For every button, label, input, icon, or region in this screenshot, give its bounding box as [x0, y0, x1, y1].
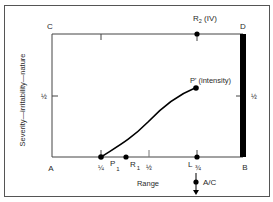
r1-label: R1 [130, 160, 141, 171]
y-axis-label: Severity—irritability—nature [18, 54, 27, 147]
p1-label: P1 [110, 159, 120, 172]
left-half-label: ½ [41, 93, 47, 100]
tick-half-label: ½ [146, 164, 152, 171]
point-p-prime [193, 85, 199, 91]
intensity-curve [101, 88, 195, 157]
ac-label: A/C [203, 178, 217, 187]
point-p1-start [98, 154, 104, 160]
right-half-label: ½ [251, 93, 257, 100]
point-r2 [194, 31, 199, 36]
point-r1 [123, 154, 128, 159]
diagram-canvas: C D A B ½ ½ Severity—irritability—nature… [0, 0, 273, 202]
down-arrow-icon [193, 190, 199, 195]
corner-a-label: A [48, 164, 54, 173]
point-l [194, 154, 199, 159]
corner-d-label: D [240, 22, 246, 31]
p-prime-label: P' (intensity) [190, 76, 232, 85]
ac-marker-dot [193, 179, 198, 184]
corner-b-label: B [242, 163, 247, 172]
corner-c-label: C [47, 22, 53, 31]
x-axis-label: Range [137, 179, 159, 188]
right-thick-bar-db [240, 34, 246, 157]
tick-three-quarter-label: ¾ [195, 164, 201, 171]
r2-label: R2 (IV) [193, 14, 217, 24]
l-label: L [188, 160, 193, 169]
tick-quarter-label: ¼ [98, 164, 104, 171]
